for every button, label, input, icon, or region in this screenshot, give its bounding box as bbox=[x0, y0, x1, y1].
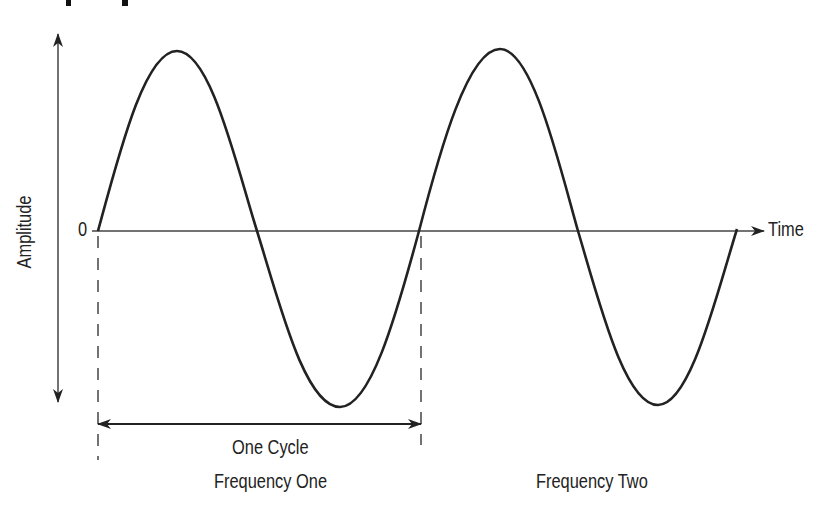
sine-wave bbox=[98, 49, 737, 407]
frequency-two-label: Frequency Two bbox=[536, 470, 648, 493]
zero-label: 0 bbox=[78, 218, 87, 241]
x-axis-label: Time bbox=[768, 218, 804, 241]
y-axis-label: Amplitude bbox=[13, 196, 36, 269]
frequency-one-label: Frequency One bbox=[214, 470, 327, 493]
one-cycle-label: One Cycle bbox=[232, 436, 309, 459]
sine-wave-diagram bbox=[0, 0, 832, 525]
